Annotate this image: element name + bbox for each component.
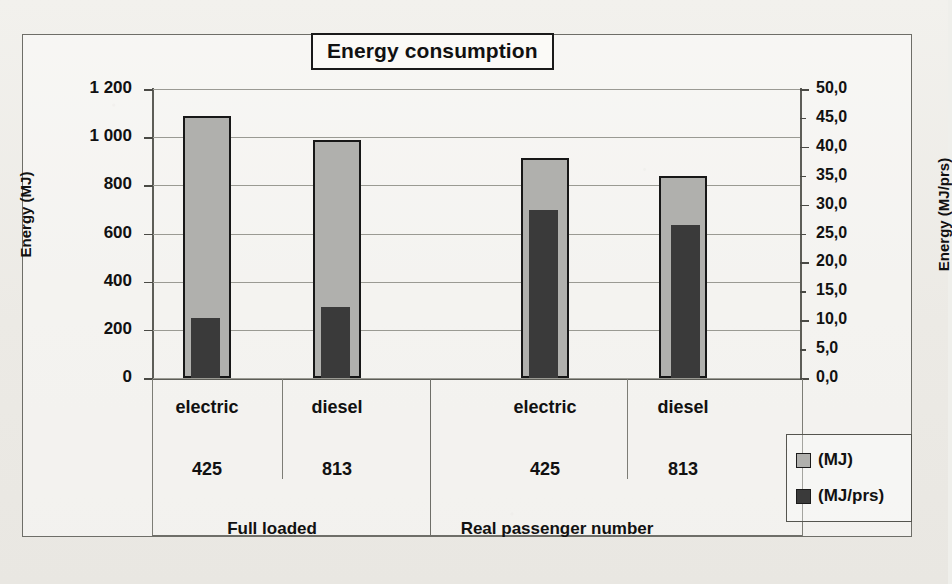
y-axis-right-tick-label: 10,0 [816,310,876,328]
y-axis-right-tick-label: 45,0 [816,108,876,126]
y-axis-right-tick [800,89,809,91]
category-number: 425 [475,459,615,480]
category-number: 813 [613,459,753,480]
y-axis-left-tick-label: 200 [22,319,132,339]
y-axis-left-title: Energy (MJ) [17,130,34,300]
legend-label-mj-prs: (MJ/prs) [818,486,884,506]
y-axis-left-tick-label: 1 000 [22,126,132,146]
y-axis-right-tick [800,205,809,207]
y-axis-right-tick [800,262,809,264]
y-axis-right-tick-label: 25,0 [816,224,876,242]
y-axis-left-tick-label: 0 [22,367,132,387]
y-axis-left-tick-label: 400 [22,271,132,291]
plot-area [152,89,800,378]
bar-mj-prs [529,210,558,378]
y-axis-right-tick [800,291,806,293]
bar-mj-prs [191,318,220,378]
legend-item-mj-prs: (MJ/prs) [796,486,884,506]
group-label: Full loaded [142,519,402,539]
chart-title: Energy consumption [311,33,554,70]
y-axis-right-title: Energy (MJ/prs) [935,115,952,315]
y-axis-right-tick [800,118,806,120]
y-axis-right-tick-label: 50,0 [816,79,876,97]
bar-mj-prs [321,307,350,378]
category-number: 425 [137,459,277,480]
bar-mj-prs [671,225,700,378]
category-label: electric [475,397,615,418]
legend-label-mj: (MJ) [818,450,853,470]
y-axis-left-tick-label: 800 [22,174,132,194]
y-axis-right-tick-label: 35,0 [816,166,876,184]
category-number: 813 [267,459,407,480]
y-axis-right-tick [800,234,806,236]
y-axis-right-tick-label: 40,0 [816,137,876,155]
light-gray-swatch-icon [796,453,811,468]
category-label: electric [137,397,277,418]
legend: (MJ) (MJ/prs) [786,434,912,522]
y-axis-right-tick-label: 5,0 [816,339,876,357]
y-axis-right-tick [800,320,809,322]
y-axis-right-tick-label: 0,0 [816,368,876,386]
group-label: Real passenger number [427,519,687,539]
group-divider [430,379,431,536]
legend-item-mj: (MJ) [796,450,853,470]
category-label-band: electric425diesel813electric425diesel813… [152,379,802,536]
y-axis-left-tick-label: 600 [22,223,132,243]
dark-gray-swatch-icon [796,489,811,504]
category-label: diesel [267,397,407,418]
category-label: diesel [613,397,753,418]
y-axis-right-tick-label: 30,0 [816,195,876,213]
y-axis-right-tick [800,176,806,178]
y-axis-right-tick [800,349,806,351]
y-axis-left-tick-label: 1 200 [22,78,132,98]
y-axis-right-tick [800,147,809,149]
y-axis-right-tick-label: 20,0 [816,252,876,270]
y-axis-right-tick-label: 15,0 [816,281,876,299]
